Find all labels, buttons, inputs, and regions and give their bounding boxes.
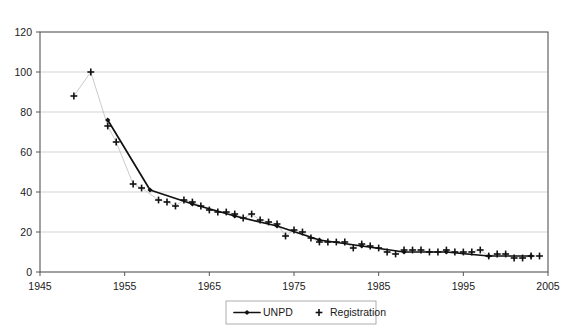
chart-canvas: 020406080100120 194519551965197519851995… xyxy=(0,0,583,332)
chart-container: 020406080100120 194519551965197519851995… xyxy=(0,0,583,332)
y-tick-label-0: 0 xyxy=(26,266,32,278)
y-tick-label-120: 120 xyxy=(14,26,32,38)
x-tick-label-2005: 2005 xyxy=(536,280,560,292)
y-tick-label-80: 80 xyxy=(20,106,32,118)
x-tick-label-1975: 1975 xyxy=(282,280,306,292)
y-tick-label-20: 20 xyxy=(20,226,32,238)
x-tick-label-1945: 1945 xyxy=(28,280,52,292)
x-tick-label-1955: 1955 xyxy=(113,280,137,292)
x-tick-label-1965: 1965 xyxy=(198,280,222,292)
y-tick-label-60: 60 xyxy=(20,146,32,158)
y-tick-label-40: 40 xyxy=(20,186,32,198)
legend-label-unpd: UNPD xyxy=(263,306,293,318)
chart-legend[interactable]: UNPD Registration xyxy=(226,301,386,324)
x-tick-label-1985: 1985 xyxy=(367,280,391,292)
x-tick-label-1995: 1995 xyxy=(452,280,476,292)
y-tick-label-100: 100 xyxy=(14,66,32,78)
legend-label-registration: Registration xyxy=(330,306,386,318)
